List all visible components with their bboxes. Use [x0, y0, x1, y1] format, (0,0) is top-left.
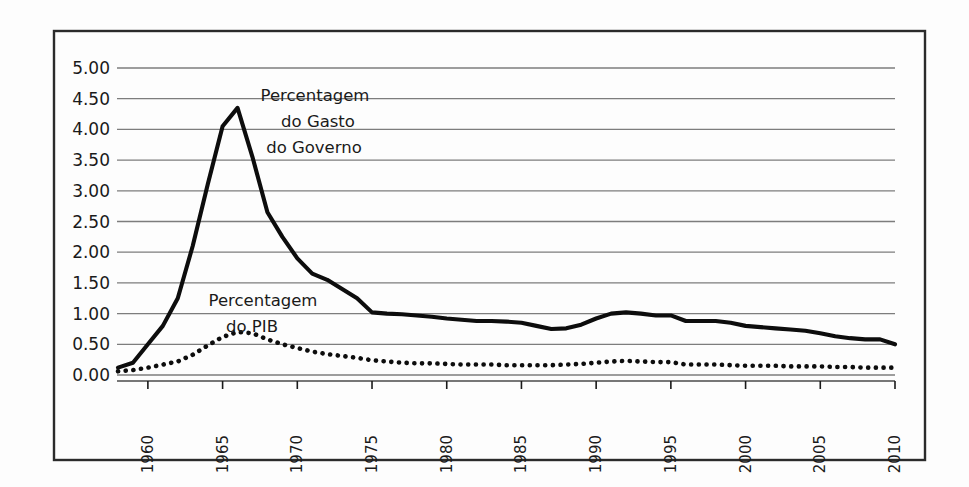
y-axis-tick-label: 2.50 [72, 212, 110, 232]
annotation-gasto-line-2: do Gasto [281, 112, 355, 131]
x-axis-tick-label: 2010 [886, 435, 904, 473]
x-axis-tick-label: 1965 [214, 435, 232, 473]
y-axis-tick-label: 1.50 [72, 273, 110, 293]
annotation-gasto-line-3: do Governo [266, 138, 362, 157]
annotation-gasto-line-1: Percentagem [261, 86, 370, 105]
y-axis-tick-label: 1.00 [72, 304, 110, 324]
x-axis-tick-label: 1970 [288, 435, 306, 473]
y-axis-tick-label: 0.50 [72, 334, 110, 354]
y-axis-tick-label: 0.00 [72, 365, 110, 385]
y-axis-tick-label: 4.00 [72, 119, 110, 139]
x-axis-tick-label: 1975 [363, 435, 381, 473]
x-axis-tick-label: 1990 [587, 435, 605, 473]
y-axis-tick-label: 4.50 [72, 89, 110, 109]
y-axis-tick-label: 3.00 [72, 181, 110, 201]
x-axis-tick-label: 1985 [512, 435, 530, 473]
chart-figure: 5.004.504.003.503.002.502.001.501.000.50… [0, 0, 969, 487]
x-axis-tick-label: 1980 [438, 435, 456, 473]
annotation-pib-line-2: do PIB [226, 317, 278, 336]
x-axis-tick-label: 1960 [139, 435, 157, 473]
x-axis-tick-label: 2005 [811, 435, 829, 473]
chart-svg: 5.004.504.003.503.002.502.001.501.000.50… [0, 0, 969, 487]
y-axis-tick-label-group: 5.004.504.003.503.002.502.001.501.000.50… [72, 58, 110, 385]
y-axis-tick-label: 3.50 [72, 150, 110, 170]
y-axis-tick-label: 5.00 [72, 58, 110, 78]
annotation-pib-line-1: Percentagem [209, 291, 318, 310]
x-axis-tick-label: 2000 [737, 435, 755, 473]
figure-background [0, 0, 969, 487]
y-axis-tick-label: 2.00 [72, 242, 110, 262]
x-axis-tick-label: 1995 [662, 435, 680, 473]
